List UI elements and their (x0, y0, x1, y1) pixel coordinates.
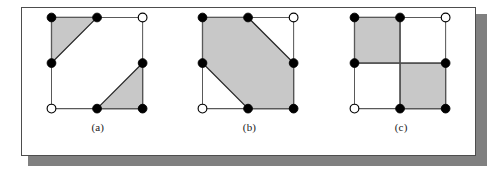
panel-b-region-hexagon (203, 17, 294, 108)
panel-a-node-bottom-right-filled (138, 104, 147, 113)
panel-b-lattice-diagram (190, 8, 308, 120)
figure-card: (a)(b)(c) (21, 7, 476, 156)
panel-a-region-bottom-right-triangle (97, 63, 143, 109)
panel-c-node-bottom-left-open (350, 104, 359, 113)
panel-c-region-bottom-right-square (400, 63, 446, 109)
figure-root: (a)(b)(c) (0, 0, 504, 191)
panel-row: (a)(b)(c) (22, 8, 477, 157)
panel-c-lattice-diagram (342, 8, 460, 120)
panel-a: (a) (33, 8, 163, 148)
panel-b-node-bottom-middle-filled (244, 104, 253, 113)
panel-c-node-top-left-filled (350, 13, 359, 22)
panel-b-node-middle-right-filled (290, 59, 299, 68)
panel-a-node-bottom-middle-filled (93, 104, 102, 113)
panel-b-label: (b) (243, 121, 256, 133)
panel-b-node-bottom-right-filled (290, 104, 299, 113)
panel-a-lattice-diagram (39, 8, 157, 120)
panel-c-region-top-left-square (355, 17, 401, 63)
panel-a-region-top-left-triangle (51, 17, 97, 63)
panel-b-node-top-middle-filled (244, 13, 253, 22)
panel-c-node-middle-right-filled (441, 59, 450, 68)
panel-a-label: (a) (91, 121, 104, 133)
panel-b-node-middle-left-filled (199, 59, 208, 68)
panel-c-label: (c) (395, 121, 408, 133)
panel-b-node-bottom-left-open (199, 104, 208, 113)
panel-c: (c) (336, 8, 466, 148)
panel-a-node-bottom-left-open (47, 104, 56, 113)
panel-a-node-top-right-open (138, 13, 147, 22)
panel-c-node-bottom-middle-filled (396, 104, 405, 113)
panel-c-node-top-right-open (441, 13, 450, 22)
panel-c-node-bottom-right-filled (441, 104, 450, 113)
panel-b-node-top-right-open (290, 13, 299, 22)
panel-a-node-middle-right-filled (138, 59, 147, 68)
panel-c-node-middle-left-filled (350, 59, 359, 68)
panel-a-node-top-left-filled (47, 13, 56, 22)
panel-b-node-top-left-filled (199, 13, 208, 22)
panel-a-node-top-middle-filled (93, 13, 102, 22)
panel-b: (b) (184, 8, 314, 148)
panel-c-node-top-middle-filled (396, 13, 405, 22)
panel-a-node-middle-left-filled (47, 59, 56, 68)
